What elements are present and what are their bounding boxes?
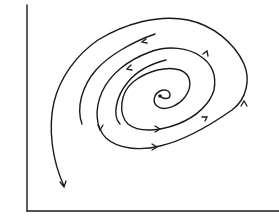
arrow-icon (142, 39, 147, 43)
arrow-icon (202, 117, 207, 121)
phase-portrait-diagram (0, 0, 279, 221)
arrow-icon (127, 65, 132, 70)
arrow-icon (241, 101, 247, 106)
arrow-icon (203, 51, 208, 56)
arrow-icon (98, 125, 103, 130)
fixed-point-dot (158, 94, 162, 98)
outer-trajectory-segment (80, 34, 155, 124)
